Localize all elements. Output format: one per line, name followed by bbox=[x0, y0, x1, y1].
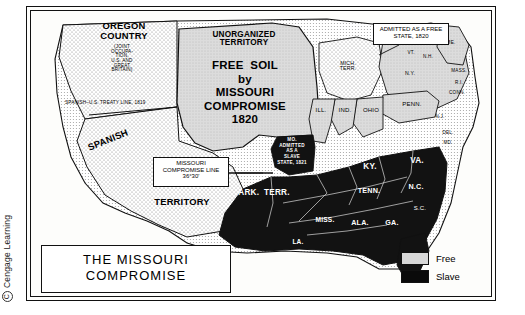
copyright-text: Cengage Learning bbox=[2, 215, 12, 288]
callout-admitted-free-state: ADMITTED AS A FREE STATE, 1820 bbox=[373, 23, 449, 45]
label-free-soil: FREE SOIL by MISSOURI COMPROMISE 1820 bbox=[185, 59, 305, 127]
label-ohio: OHIO bbox=[357, 107, 385, 113]
label-new-york: N.Y. bbox=[399, 71, 421, 76]
legend-label-slave: Slave bbox=[436, 271, 460, 282]
legend-item-slave: Slave bbox=[401, 270, 485, 283]
label-rhode-island: R.I. bbox=[451, 81, 467, 86]
label-south-carolina: S.C. bbox=[409, 205, 431, 211]
label-arkansas-territory: ARK. TERR. bbox=[233, 189, 295, 197]
map-plate: OREGON COUNTRY (JOINT OCCUPA- TION, U.S.… bbox=[26, 6, 496, 301]
legend-item-free: Free bbox=[401, 252, 485, 265]
label-indiana: IND. bbox=[333, 107, 357, 113]
label-delaware: DEL. bbox=[439, 131, 457, 136]
label-oregon-country: OREGON COUNTRY bbox=[91, 21, 157, 40]
label-georgia: GA. bbox=[379, 219, 405, 226]
callout-compromise-line: MISSOURI COMPROMISE LINE 36°30' bbox=[153, 157, 229, 187]
label-new-hampshire: N.H. bbox=[419, 55, 437, 60]
label-mississippi: MISS. bbox=[309, 217, 341, 224]
label-massachusetts: MASS. bbox=[447, 69, 471, 74]
label-michigan-territory: MICH. TERR. bbox=[331, 61, 365, 72]
label-territory: TERRITORY bbox=[139, 197, 225, 207]
label-north-carolina: N.C. bbox=[401, 183, 431, 190]
label-maryland: MD. bbox=[439, 141, 457, 146]
legend-swatch-slave bbox=[401, 270, 429, 283]
label-pennsylvania: PENN. bbox=[395, 101, 429, 107]
label-illinois: ILL. bbox=[309, 107, 333, 113]
copyright-symbol: C bbox=[2, 291, 13, 302]
map-title: THE MISSOURI COMPROMISE bbox=[41, 245, 231, 293]
label-alabama: ALA. bbox=[347, 219, 373, 226]
label-louisiana: LA. bbox=[287, 239, 309, 246]
label-kentucky: KY. bbox=[355, 163, 385, 171]
map-title-line2: COMPROMISE bbox=[48, 268, 224, 284]
label-tennessee: TENN. bbox=[351, 187, 387, 194]
label-new-jersey: N.J. bbox=[431, 115, 449, 120]
legend: Free Slave bbox=[401, 252, 485, 288]
legend-swatch-free bbox=[401, 252, 429, 265]
label-connecticut: CONN. bbox=[445, 91, 469, 96]
label-joint-occupation: (JOINT OCCUPA- TION, U.S. AND GREAT BRIT… bbox=[93, 45, 151, 73]
map-figure: CCengage Learning bbox=[0, 0, 525, 315]
label-virginia: VA. bbox=[401, 157, 433, 165]
label-unorganized-territory: UNORGANIZED TERRITORY bbox=[181, 31, 307, 48]
legend-label-free: Free bbox=[436, 253, 456, 264]
label-treaty-line: SPANISH–U.S. TREATY LINE, 1819 bbox=[65, 101, 175, 106]
label-vermont: VT. bbox=[403, 51, 419, 56]
map-title-line1: THE MISSOURI bbox=[48, 252, 224, 268]
label-missouri-admitted: MO. ADMITTED AS A SLAVE STATE, 1821 bbox=[271, 137, 313, 166]
